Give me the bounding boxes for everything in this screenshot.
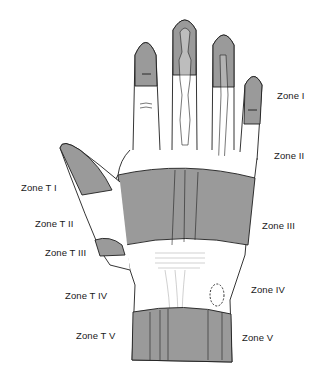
label-zone-4: Zone IV: [251, 284, 285, 295]
label-zone-t5: Zone T V: [76, 330, 116, 341]
label-zone-t4: Zone T IV: [65, 290, 107, 301]
zone3-shade: [118, 168, 255, 245]
label-zone-t3: Zone T III: [45, 247, 86, 258]
zone5-shade: [132, 307, 232, 362]
label-zone-t1: Zone T I: [21, 182, 57, 193]
label-zone-5: Zone V: [242, 332, 273, 343]
little-zone1-shade: [244, 77, 262, 125]
label-zone-2: Zone II: [274, 150, 304, 161]
index-zone1-shade: [135, 43, 157, 87]
label-zone-t2: Zone T II: [35, 218, 74, 229]
label-zone-1: Zone I: [277, 90, 305, 101]
label-zone-3: Zone III: [262, 220, 295, 231]
